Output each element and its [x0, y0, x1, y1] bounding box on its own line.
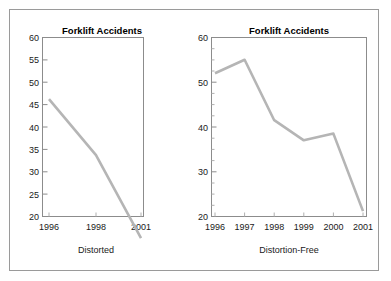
- distorted-ytick-30: 30: [29, 167, 39, 177]
- figure-root: Forklift Accidents 60 55: [0, 0, 391, 281]
- distorted-ytick-60: 60: [29, 33, 39, 43]
- distortion-free-xtick-1996: 1996: [205, 222, 225, 232]
- distorted-ytick-55: 55: [29, 55, 39, 65]
- distorted-ytick-40: 40: [29, 123, 39, 133]
- distorted-xtick-1998: 1998: [86, 222, 106, 232]
- distorted-caption: Distorted: [78, 245, 114, 255]
- distortion-free-xtick-1998: 1998: [264, 222, 284, 232]
- distortion-free-ytick-40: 40: [198, 123, 208, 133]
- distortion-free-ytick-20: 20: [198, 212, 208, 222]
- distortion-free-caption: Distortion-Free: [259, 245, 319, 255]
- distortion-free-ytick-30: 30: [198, 167, 208, 177]
- distortion-free-xtick-2001: 2001: [353, 222, 373, 232]
- distortion-free-ytick-50: 50: [198, 78, 208, 88]
- distorted-chart-svg: Forklift Accidents 60 55: [10, 10, 195, 272]
- distorted-ytick-35: 35: [29, 145, 39, 155]
- chart-panel-distorted: Forklift Accidents 60 55: [10, 10, 195, 272]
- distorted-ytick-20: 20: [29, 212, 39, 222]
- distortion-free-chart-svg: Forklift Accidents: [195, 10, 380, 272]
- distortion-free-chart-title: Forklift Accidents: [249, 25, 329, 36]
- distortion-free-xtick-1997: 1997: [235, 222, 255, 232]
- distorted-xtick-1996: 1996: [39, 222, 59, 232]
- distorted-ytick-50: 50: [29, 78, 39, 88]
- distortion-free-xtick-1999: 1999: [294, 222, 314, 232]
- distorted-plot-area: [43, 38, 144, 217]
- distortion-free-xtick-2000: 2000: [323, 222, 343, 232]
- distorted-ytick-25: 25: [29, 190, 39, 200]
- distortion-free-ytick-60: 60: [198, 33, 208, 43]
- chart-panel-distortion-free: Forklift Accidents: [195, 10, 380, 272]
- figure-border: Forklift Accidents 60 55: [9, 9, 379, 271]
- distorted-ytick-45: 45: [29, 100, 39, 110]
- distorted-chart-title: Forklift Accidents: [62, 25, 142, 36]
